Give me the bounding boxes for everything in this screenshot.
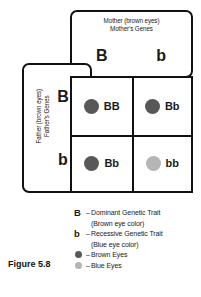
brown-eye-icon [84,156,99,171]
punnett-genotype-label: bb [166,158,179,169]
blue-eye-icon [74,261,85,271]
mother-title: Mother (brown eyes) Mother's Genes [72,17,191,33]
punnett-genotype-label: BB [104,101,120,112]
punnett-cell-bb-recessive: bb [132,135,192,192]
legend-item-recessive: b – Recessive Genetic Trait (Blue eye co… [74,229,199,249]
figure-caption: Figure 5.8 [8,259,51,269]
father-title-line1: Father (brown eyes) [35,53,43,179]
legend-row: B – Dominant Genetic Trait [74,208,199,218]
legend-label: Blue Eyes [91,261,122,271]
legend-item-blue-eyes: – Blue Eyes [74,261,199,271]
punnett-genotype-label: Bb [104,158,119,169]
mother-title-line2: Mother's Genes [72,25,191,33]
legend-item-dominant: B – Dominant Genetic Trait (Brown eye co… [74,208,199,228]
mother-title-line1: Mother (brown eyes) [72,17,191,25]
legend-key-letter-B: B [74,208,85,218]
legend-label: Recessive Genetic Trait [91,229,163,239]
legend: B – Dominant Genetic Trait (Brown eye co… [74,208,199,271]
punnett-cell-bb-heterozygous-1: Bb [132,78,192,135]
brown-eye-dot [75,251,82,258]
legend-row: b – Recessive Genetic Trait [74,229,199,239]
punnett-genotype-label: Bb [165,101,180,112]
legend-sublabel: (Brown eye color) [91,219,199,229]
punnett-cell-bb-dominant: BB [72,78,132,135]
brown-eye-icon [145,99,160,114]
brown-eye-icon [74,250,85,260]
punnett-square-grid: BB Bb Bb bb [70,76,193,193]
legend-sublabel: (Blue eye color) [91,240,199,250]
legend-item-brown-eyes: – Brown Eyes [74,250,199,260]
blue-eye-icon [146,156,161,171]
legend-label: Brown Eyes [91,250,127,260]
legend-label: Dominant Genetic Trait [91,208,160,218]
mother-gene-allele-2: b [132,38,192,78]
brown-eye-icon [84,99,99,114]
legend-key-letter-b: b [74,229,85,239]
blue-eye-dot [75,262,82,269]
punnett-cell-bb-heterozygous-2: Bb [72,135,132,192]
